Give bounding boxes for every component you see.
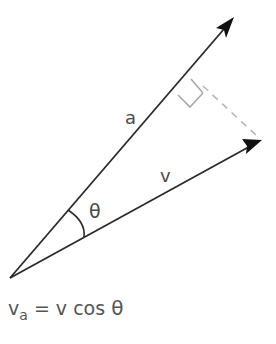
formula-equals: = xyxy=(34,297,50,319)
right-angle-marker xyxy=(178,93,203,107)
projection-formula: va = v cos θ xyxy=(8,296,123,320)
vector-a xyxy=(10,22,230,278)
formula-rhs-text: v cos xyxy=(56,297,105,319)
vector-v-label: v xyxy=(160,165,171,186)
vector-v-arrowhead-icon xyxy=(242,139,262,154)
formula-lhs-subscript: a xyxy=(19,307,28,323)
formula-theta: θ xyxy=(111,296,123,320)
angle-theta-label: θ xyxy=(89,200,101,222)
angle-arc xyxy=(68,210,84,237)
right-angle-marker-tick xyxy=(191,79,203,93)
formula-lhs-main: v xyxy=(8,297,19,319)
projection-dashed-line xyxy=(203,86,258,137)
vector-a-label: a xyxy=(125,107,136,128)
vector-projection-diagram: a v θ xyxy=(0,0,276,344)
vector-v xyxy=(10,143,256,278)
